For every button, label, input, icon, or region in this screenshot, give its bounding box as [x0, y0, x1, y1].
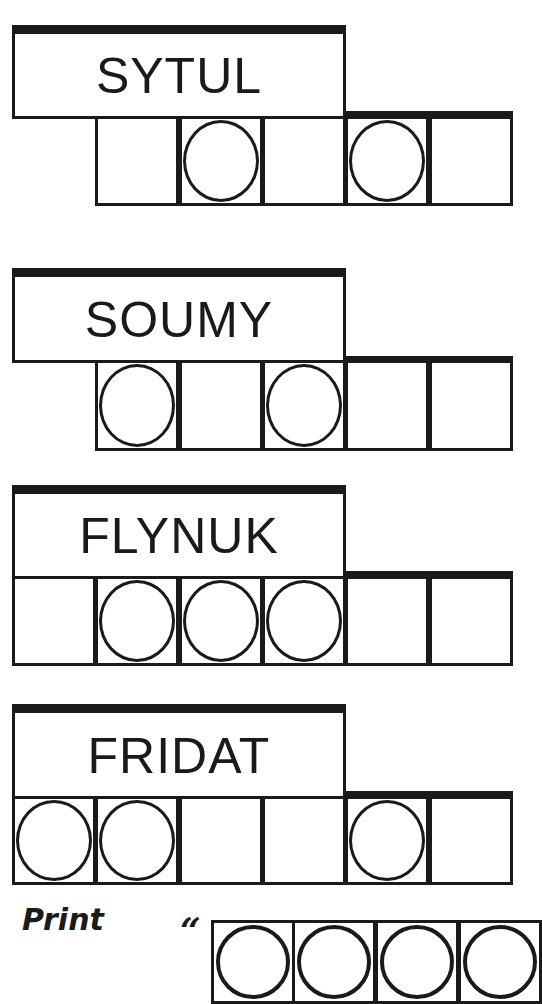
answer-cell-circled[interactable] [211, 920, 295, 1004]
answer-cell-circled[interactable] [292, 920, 376, 1004]
letter-cell-circled[interactable] [179, 576, 263, 666]
circle-icon [266, 364, 342, 447]
letter-cell[interactable] [12, 576, 96, 666]
print-answer-label: Print [22, 905, 104, 935]
letter-cell-circled[interactable] [345, 116, 429, 206]
circle-icon [297, 925, 371, 999]
letter-cell[interactable] [429, 360, 513, 451]
scrambled-word-box: SOUMY [12, 268, 346, 363]
circle-icon [380, 925, 454, 999]
letter-cell-circled[interactable] [179, 116, 263, 206]
circle-icon [266, 580, 342, 662]
scrambled-word: FRIDAT [88, 731, 271, 781]
answer-cell-circled[interactable] [458, 920, 542, 1004]
letter-cell[interactable] [179, 360, 263, 451]
letter-cell[interactable] [262, 116, 346, 206]
letter-cell[interactable] [179, 796, 263, 885]
letter-cell-circled[interactable] [12, 796, 96, 885]
circle-icon [463, 925, 537, 999]
circle-icon [183, 120, 259, 202]
open-quote: “ [180, 912, 201, 948]
letter-cell[interactable] [429, 796, 513, 885]
letter-cell-circled[interactable] [345, 796, 429, 885]
letter-cell[interactable] [95, 116, 179, 206]
letter-cell-circled[interactable] [262, 360, 346, 451]
letter-cell[interactable] [429, 576, 513, 666]
letter-cell[interactable] [262, 796, 346, 885]
letter-cell-circled[interactable] [95, 796, 179, 885]
answer-cell-circled[interactable] [375, 920, 459, 1004]
letter-cell[interactable] [429, 116, 513, 206]
circle-icon [349, 120, 425, 202]
scrambled-word-box: FLYNUK [12, 485, 346, 579]
letter-cell[interactable] [345, 360, 429, 451]
scrambled-word: FLYNUK [79, 511, 279, 561]
letter-cell-circled[interactable] [95, 576, 179, 666]
scrambled-word: SOUMY [85, 295, 273, 345]
circle-icon [16, 800, 92, 881]
scrambled-word-box: FRIDAT [12, 704, 346, 799]
letter-cell-circled[interactable] [262, 576, 346, 666]
circle-icon [99, 364, 175, 447]
letter-cell-circled[interactable] [95, 360, 179, 451]
circle-icon [216, 925, 290, 999]
circle-icon [349, 800, 425, 881]
letter-cell[interactable] [345, 576, 429, 666]
scrambled-word-box: SYTUL [12, 25, 346, 119]
circle-icon [183, 580, 259, 662]
circle-icon [99, 580, 175, 662]
circle-icon [99, 800, 175, 881]
scrambled-word: SYTUL [96, 51, 262, 101]
